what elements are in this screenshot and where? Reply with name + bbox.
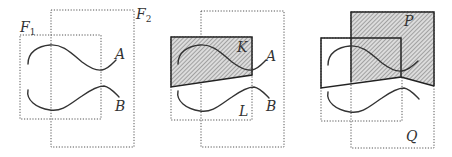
label-f1: F1	[19, 19, 35, 37]
diagram-figure: F1 F2 A B K L A B P Q	[0, 0, 452, 157]
curve-a	[28, 45, 116, 70]
label-k: K	[236, 39, 249, 55]
panel-3: P Q	[321, 12, 434, 148]
panel-1: F1 F2 A B	[19, 6, 151, 147]
label-q: Q	[406, 128, 418, 144]
panel-2: K L A B	[171, 11, 284, 147]
diagram-svg: F1 F2 A B K L A B P Q	[0, 0, 452, 157]
curve-b	[328, 88, 419, 112]
label-f2: F2	[135, 6, 151, 24]
label-p: P	[403, 13, 414, 29]
frame-f2	[51, 10, 134, 147]
label-a: A	[113, 46, 125, 62]
label-a: A	[264, 48, 276, 64]
label-b: B	[114, 98, 125, 114]
label-b: B	[265, 98, 276, 114]
label-l: L	[238, 103, 248, 119]
curve-b	[28, 86, 119, 110]
frame-f1	[20, 35, 101, 119]
curve-b	[178, 87, 269, 111]
